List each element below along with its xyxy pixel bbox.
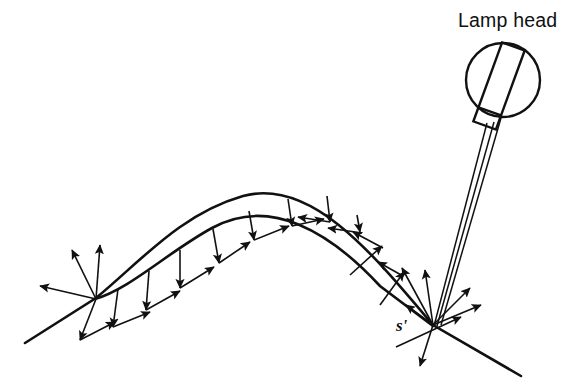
- diagram-canvas: [0, 0, 581, 391]
- surface-curves: [25, 193, 521, 376]
- zigzag-vector-field-right: [298, 196, 404, 305]
- lamp-head-label: Lamp head: [458, 9, 557, 32]
- outer-surface-curve: [25, 193, 521, 376]
- light-beam-rays: [434, 118, 501, 326]
- incidence-point-arrows: [396, 268, 481, 366]
- lamp-head-group: [466, 42, 540, 129]
- ray-s-prime-label: s': [396, 316, 407, 336]
- optical-diagram-figure: Lamp head s': [0, 0, 581, 391]
- left-end-fan-arrows: [40, 245, 100, 299]
- lamp-head-circle: [466, 43, 540, 117]
